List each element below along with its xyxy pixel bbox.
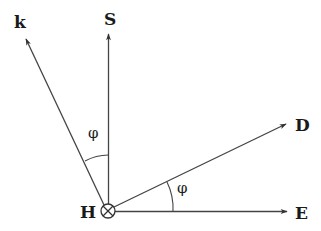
label-k: k — [14, 12, 27, 32]
vector-k-arrow — [26, 39, 104, 205]
label-e: E — [295, 203, 308, 223]
label-d: D — [295, 115, 310, 135]
angle-label-phi-right: φ — [177, 179, 188, 197]
into-page-cross-icon — [101, 204, 115, 218]
angle-label-phi-top: φ — [88, 124, 99, 142]
vector-diagram: k S D E H φ φ — [0, 0, 321, 231]
angle-arc-k-s — [85, 155, 109, 161]
label-s: S — [104, 9, 116, 29]
label-h: H — [80, 202, 96, 222]
angle-arc-e-d — [167, 182, 173, 212]
vector-d-arrow — [114, 124, 286, 207]
